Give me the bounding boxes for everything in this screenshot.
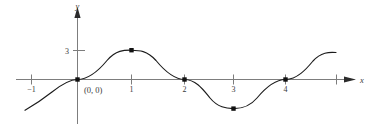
coordinate-plot: −1 1 2 3 4 3 (0, 0) x y <box>0 0 382 130</box>
sine-curve <box>25 50 336 110</box>
x-tick-label-neg1: −1 <box>27 85 36 94</box>
marked-point-trough-3 <box>231 106 235 110</box>
y-tick-label-3: 3 <box>65 47 69 56</box>
x-axis-arrowhead <box>344 76 356 82</box>
x-tick-label-1: 1 <box>130 85 134 94</box>
graph-figure: −1 1 2 3 4 3 (0, 0) x y <box>0 0 382 130</box>
x-axis-label: x <box>359 75 364 85</box>
origin-point-label: (0, 0) <box>84 85 103 95</box>
marked-point-peak-1 <box>129 48 133 52</box>
y-axis-label: y <box>75 1 80 11</box>
marked-point-zero-4 <box>283 77 287 81</box>
x-tick-label-4: 4 <box>284 85 288 94</box>
x-tick-label-2: 2 <box>183 85 187 94</box>
marked-point-zero-2 <box>182 77 186 81</box>
x-tick-label-3: 3 <box>232 85 236 94</box>
marked-point-origin <box>75 77 79 81</box>
